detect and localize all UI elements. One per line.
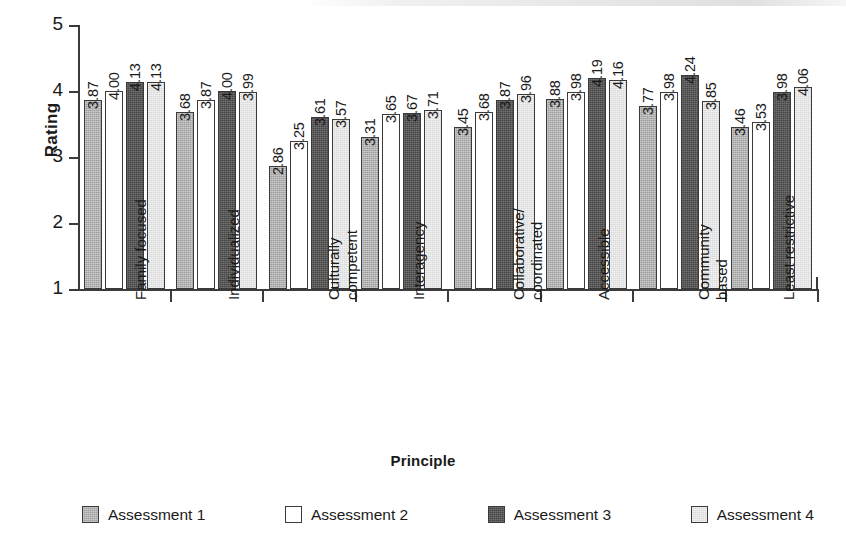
bar-assessment-1-individualized[interactable] [176,112,194,289]
bar-assessment-2-individualized[interactable] [197,100,215,289]
y-axis-tick-label: 3 [52,146,63,166]
bar-assessment-1-accessible[interactable] [546,99,564,289]
x-axis-category-label: Collaborative/coordinated [510,208,546,300]
x-axis-tick [817,289,819,302]
legend-item-4[interactable]: Assessment 4 [691,506,814,523]
bar-chart-figure: Rating 123453.874.004.134.133.683.874.00… [0,0,846,545]
bar-value-label: 3.85 [704,82,719,110]
scan-artifact [300,0,846,6]
bar-value-label: 3.96 [519,75,534,103]
legend-swatch-icon [488,506,505,523]
category-label-line: Collaborative/ [510,208,527,300]
bar-value-label: 3.25 [292,122,307,150]
chart-legend: Assessment 1Assessment 2Assessment 3Asse… [78,498,818,530]
y-axis-tick: 5 [69,25,80,27]
category-label-line: Culturally [325,237,342,300]
legend-label: Assessment 2 [311,506,408,523]
legend-swatch-icon [691,506,708,523]
legend-label: Assessment 3 [514,506,611,523]
bar-assessment-1-least-restrictive[interactable] [731,127,749,289]
category-label-line: competent [343,230,361,300]
bar-assessment-1-community-based[interactable] [639,106,657,289]
x-axis-tick [447,289,449,302]
bar-assessment-1-collaborative-coordinated[interactable] [454,127,472,289]
category-label-line: Interagency [410,222,427,300]
x-axis-tick [170,289,172,302]
x-axis-category-label: Interagency [410,222,428,300]
y-axis-tick-label: 2 [52,212,63,232]
category-label-line: coordinated [528,208,546,300]
bar-value-label: 4.00 [220,72,235,100]
legend-label: Assessment 4 [717,506,814,523]
x-axis-category-label: Culturallycompetent [325,230,361,300]
bar-assessment-2-interagency[interactable] [382,114,400,289]
x-axis-tick [262,289,264,302]
bar-assessment-1-culturally-competent[interactable] [269,166,287,289]
bar-assessment-2-family-focused[interactable] [105,91,123,289]
bar-value-label: 3.87 [498,81,513,109]
bar-assessment-2-least-restrictive[interactable] [752,122,770,289]
legend-item-2[interactable]: Assessment 2 [285,506,408,523]
bar-value-label: 3.87 [199,81,214,109]
y-axis-tick-label: 4 [52,80,63,100]
bar-assessment-1-interagency[interactable] [361,137,379,289]
bar-value-label: 3.98 [775,73,790,101]
x-axis-category-label: Accessible [595,228,613,300]
bar-assessment-2-culturally-competent[interactable] [290,141,308,290]
legend-swatch-icon [285,506,302,523]
category-label-line: Individualized [225,209,242,300]
bar-value-label: 4.19 [590,60,605,88]
y-axis-tick: 2 [69,223,80,225]
x-axis-category-label: Communitybased [695,224,731,300]
bar-value-label: 3.53 [754,103,769,131]
bar-value-label: 3.68 [178,93,193,121]
bar-assessment-2-accessible[interactable] [567,92,585,289]
bar-value-label: 3.99 [241,73,256,101]
legend-item-3[interactable]: Assessment 3 [488,506,611,523]
y-axis-tick-label: 1 [52,278,63,298]
bar-value-label: 3.57 [334,101,349,129]
x-axis-category-label: Least restrictive [780,195,798,300]
bar-value-label: 3.46 [733,108,748,136]
category-label-line: Community [695,224,712,300]
bar-assessment-2-community-based[interactable] [660,92,678,289]
bar-value-label: 3.61 [313,98,328,126]
bar-value-label: 3.68 [477,93,492,121]
bar-value-label: 3.98 [662,73,677,101]
x-axis-category-label: Individualized [225,209,243,300]
y-axis-tick: 4 [69,91,80,93]
bar-value-label: 3.87 [86,81,101,109]
bar-value-label: 4.13 [128,64,143,92]
legend-label: Assessment 1 [108,506,205,523]
bar-value-label: 4.00 [107,72,122,100]
category-label-line: Least restrictive [780,195,797,300]
legend-item-1[interactable]: Assessment 1 [82,506,205,523]
bar-value-label: 4.13 [149,64,164,92]
bar-assessment-2-collaborative-coordinated[interactable] [475,112,493,289]
category-label-line: Accessible [595,228,612,300]
bar-value-label: 4.24 [683,56,698,84]
bar-value-label: 3.67 [405,94,420,122]
legend-swatch-icon [82,506,99,523]
x-axis-category-label: Family focused [132,199,150,300]
bar-value-label: 3.77 [641,87,656,115]
bar-value-label: 3.88 [548,80,563,108]
y-axis-tick-label: 5 [52,14,63,34]
category-label-line: based [713,224,731,300]
bar-value-label: 4.16 [611,62,626,90]
y-axis-tick: 3 [69,157,80,159]
y-axis-tick: 1 [69,289,80,291]
bar-assessment-1-family-focused[interactable] [84,100,102,289]
category-label-line: Family focused [132,199,149,300]
bar-value-label: 3.65 [384,95,399,123]
x-axis-title: Principle [0,452,846,469]
bar-value-label: 3.45 [456,108,471,136]
bar-value-label: 4.06 [796,68,811,96]
x-axis-tick [632,289,634,302]
bar-value-label: 3.71 [426,91,441,119]
bar-value-label: 2.86 [271,147,286,175]
bar-value-label: 3.98 [569,73,584,101]
bar-value-label: 3.31 [363,118,378,146]
